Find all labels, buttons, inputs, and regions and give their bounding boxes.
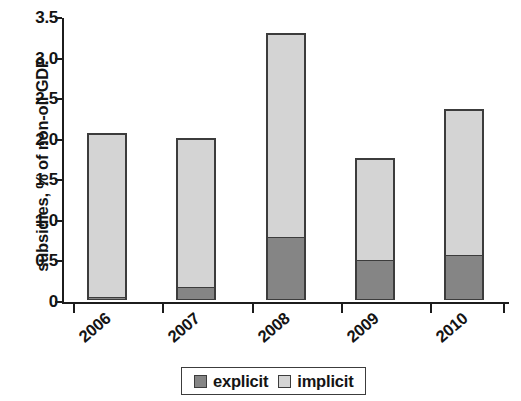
y-axis-tick-label: 3.0 <box>14 49 58 69</box>
y-axis-tick-label: 0.5 <box>14 251 58 271</box>
chart-legend: explicitimplicit <box>181 367 366 395</box>
bar-segment-explicit <box>87 297 127 300</box>
legend-item-implicit[interactable]: implicit <box>278 372 353 391</box>
bar-segment-implicit <box>87 133 127 297</box>
y-axis-tick-mark <box>55 17 62 19</box>
bar-2009 <box>355 158 395 300</box>
bar-2008 <box>266 33 306 300</box>
x-axis-tick-label-2006: 2006 <box>75 309 114 346</box>
legend-item-explicit[interactable]: explicit <box>194 372 268 391</box>
y-axis-tick-mark <box>55 220 62 222</box>
y-axis-tick-label: 3.5 <box>14 8 58 28</box>
y-axis-tick-label: 2.5 <box>14 89 58 109</box>
bar-2007 <box>176 138 216 300</box>
bar-chart-figure: subsidies, % of non-oil GDP 00.51.01.52.… <box>0 0 521 401</box>
y-axis-tick-labels: 00.51.01.52.02.53.03.5 <box>8 0 58 401</box>
y-axis-tick-mark <box>55 139 62 141</box>
y-axis-tick-mark <box>55 58 62 60</box>
bar-segment-implicit <box>444 109 484 255</box>
legend-label: explicit <box>213 372 268 391</box>
y-axis-tick-mark <box>55 301 62 303</box>
bar-segment-explicit <box>176 287 216 300</box>
y-axis-tick-mark <box>55 260 62 262</box>
y-axis-tick-label: 0 <box>14 292 58 312</box>
bar-segment-explicit <box>266 237 306 300</box>
bar-2010 <box>444 109 484 300</box>
bar-2006 <box>87 133 127 300</box>
bar-segment-implicit <box>266 33 306 237</box>
x-axis-tick-labels: 20062007200820092010 <box>62 304 509 360</box>
bar-segment-implicit <box>355 158 395 260</box>
x-axis-tick-label-2007: 2007 <box>164 309 203 346</box>
legend-swatch-icon <box>278 375 291 388</box>
x-axis-tick-label-2008: 2008 <box>254 309 293 346</box>
y-axis-tick-label: 1.0 <box>14 211 58 231</box>
bar-segment-explicit <box>444 255 484 300</box>
y-axis-line <box>62 18 64 303</box>
legend-swatch-icon <box>194 375 207 388</box>
plot-area <box>62 18 509 302</box>
x-axis-tick-label-2010: 2010 <box>432 309 471 346</box>
bar-segment-explicit <box>355 260 395 300</box>
legend-label: implicit <box>297 372 353 391</box>
y-axis-tick-mark <box>55 98 62 100</box>
y-axis-tick-mark <box>55 179 62 181</box>
bar-segment-implicit <box>176 138 216 287</box>
y-axis-tick-label: 1.5 <box>14 170 58 190</box>
x-axis-tick-label-2009: 2009 <box>343 309 382 346</box>
y-axis-tick-label: 2.0 <box>14 130 58 150</box>
